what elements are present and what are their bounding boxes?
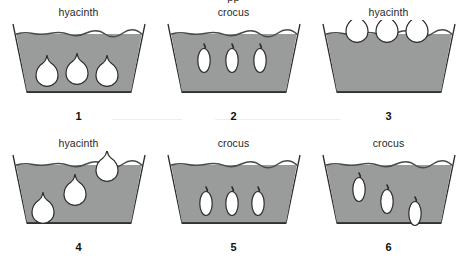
- vessel-5: [164, 151, 304, 237]
- vessel-3: [319, 20, 459, 106]
- panel-number: 3: [311, 110, 466, 122]
- vessel-4: [9, 151, 149, 237]
- panel-1: hyacinth: [1, 0, 156, 130]
- vessel-drawing: [319, 20, 459, 102]
- panel-label: hyacinth: [1, 137, 156, 149]
- vessel-drawing: [319, 151, 459, 233]
- vessel-drawing: [164, 20, 304, 102]
- panel-number: 1: [1, 110, 156, 122]
- bulb-group: [36, 53, 118, 86]
- panel-number: 5: [156, 241, 311, 253]
- panel-number: 6: [311, 241, 466, 253]
- panel-label: crocus: [156, 6, 311, 18]
- vessel-6: [319, 151, 459, 237]
- vessel-drawing: [164, 151, 304, 233]
- panel-number: 2: [156, 110, 311, 122]
- panel-3: hyacinth: [311, 0, 466, 130]
- vessel-drawing: [9, 20, 149, 102]
- vessel-2: [164, 20, 304, 106]
- bulbs-in-water-figure: pp hyacinth: [0, 0, 467, 261]
- panel-label: crocus: [311, 137, 466, 149]
- vessel-drawing: [9, 151, 149, 233]
- panel-label: hyacinth: [1, 6, 156, 18]
- panel-number: 4: [1, 241, 156, 253]
- panel-4: hyacinth: [1, 131, 156, 261]
- panel-label: hyacinth: [311, 6, 466, 18]
- panel-2: crocus: [156, 0, 311, 130]
- panel-6: crocus: [311, 131, 466, 261]
- bulb-group: [346, 20, 428, 42]
- vessel-1: [9, 20, 149, 106]
- panel-grid: hyacinth: [0, 0, 467, 261]
- panel-label: crocus: [156, 137, 311, 149]
- panel-5: crocus: [156, 131, 311, 261]
